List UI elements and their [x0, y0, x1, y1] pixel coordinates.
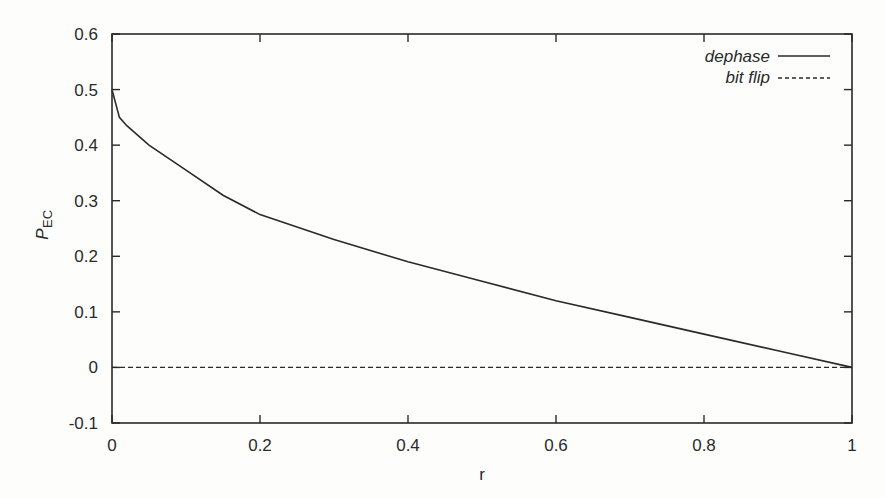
legend-label-dephase: dephase: [705, 47, 770, 66]
x-tick-label: 1: [847, 436, 856, 455]
x-tick-label: 0.6: [544, 436, 568, 455]
y-tick-label: 0.2: [74, 247, 98, 266]
x-tick-label: 0: [107, 436, 116, 455]
y-tick-label: 0.1: [74, 303, 98, 322]
y-tick-label: 0.3: [74, 192, 98, 211]
x-axis-ticks: 00.20.40.60.81: [107, 34, 856, 455]
dephase-line: [112, 90, 852, 368]
y-tick-label: 0.5: [74, 81, 98, 100]
x-tick-label: 0.8: [692, 436, 716, 455]
legend-label-bit-flip: bit flip: [726, 68, 770, 87]
y-axis-label: P EC: [33, 210, 55, 240]
line-chart: -0.100.10.20.30.40.50.6 00.20.40.60.81 d…: [0, 0, 886, 498]
y-tick-label: 0.6: [74, 25, 98, 44]
x-tick-label: 0.2: [248, 436, 272, 455]
y-tick-label: 0: [89, 358, 98, 377]
svg-text:EC: EC: [40, 210, 55, 228]
y-tick-label: -0.1: [69, 414, 98, 433]
y-tick-label: 0.4: [74, 136, 98, 155]
svg-text:P: P: [33, 228, 52, 240]
x-tick-label: 0.4: [396, 436, 420, 455]
legend: dephase bit flip: [705, 47, 830, 87]
plot-frame: [112, 34, 852, 423]
x-axis-label: r: [479, 465, 485, 484]
